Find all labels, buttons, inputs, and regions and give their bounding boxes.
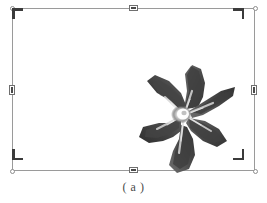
- crop-mark-arm-vertical: [242, 8, 245, 19]
- corner-dot-bottom-left[interactable]: [10, 169, 15, 174]
- handle-middle-left[interactable]: [9, 85, 15, 95]
- flower-image[interactable]: [129, 61, 239, 176]
- corner-dot-bottom-right[interactable]: [253, 169, 258, 174]
- handle-bottom-center[interactable]: [129, 167, 138, 173]
- handle-fill: [131, 169, 136, 171]
- handle-middle-right[interactable]: [251, 85, 257, 95]
- handle-fill: [131, 7, 136, 9]
- figure-root: ( a ): [0, 0, 267, 203]
- crop-mark-arm-vertical: [12, 149, 15, 160]
- crop-mark-arm-vertical: [12, 8, 15, 19]
- handle-top-center[interactable]: [129, 5, 138, 11]
- figure-caption: ( a ): [0, 180, 267, 195]
- handle-fill: [253, 87, 255, 93]
- selection-frame[interactable]: [12, 8, 255, 171]
- handle-fill: [11, 87, 13, 93]
- corner-dot-top-right[interactable]: [253, 6, 258, 11]
- crop-mark-arm-vertical: [242, 149, 245, 160]
